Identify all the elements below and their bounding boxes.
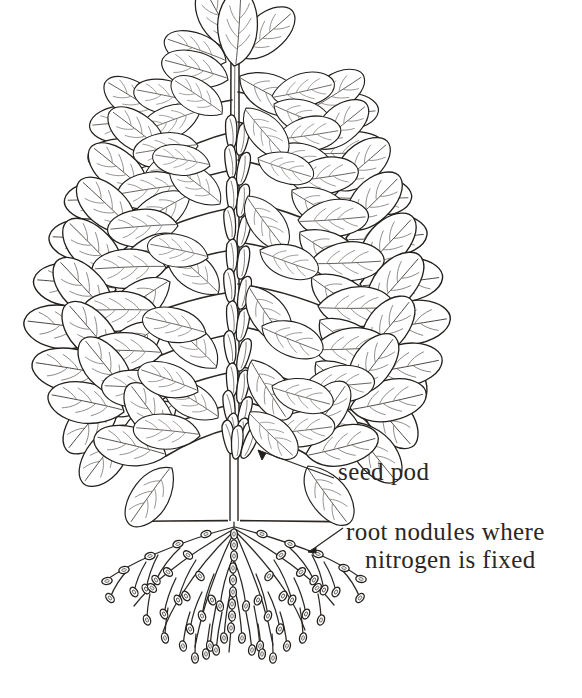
plant-illustration [0, 0, 582, 698]
root-nodule-leader [308, 528, 343, 553]
root-system [101, 522, 366, 663]
label-root-nodules-line2: nitrogen is fixed [346, 546, 545, 574]
botanical-figure: seed pod root nodules where nitrogen is … [0, 0, 582, 698]
label-root-nodules: root nodules where nitrogen is fixed [346, 518, 545, 574]
label-seed-pod: seed pod [338, 458, 429, 486]
label-root-nodules-line1: root nodules where [346, 518, 545, 545]
